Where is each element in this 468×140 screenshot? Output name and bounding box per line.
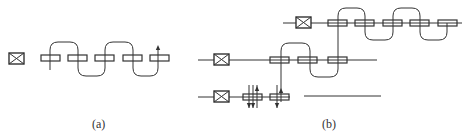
panel-a-label: (a): [92, 117, 105, 132]
element-rect: [270, 57, 289, 63]
element-rect: [438, 20, 457, 26]
arrow-down-icon: [275, 103, 279, 108]
element-rect: [328, 57, 347, 63]
panel-b-label: (b): [322, 117, 336, 132]
crossed-box-icon: [214, 54, 229, 65]
arrow-up-icon: [255, 86, 259, 91]
arrow-down-icon: [251, 103, 255, 108]
element-rect: [95, 55, 114, 61]
panel-b: [198, 8, 462, 108]
arrow-up-icon: [279, 88, 283, 93]
element-rect: [298, 57, 317, 63]
arrow-down-icon: [247, 103, 251, 108]
element-rect: [383, 20, 402, 26]
arrow-up-icon: [156, 45, 160, 50]
element-rect: [68, 55, 87, 61]
element-rect: [243, 94, 262, 100]
element-rect: [410, 20, 429, 26]
element-rect: [41, 55, 60, 61]
crossed-box-icon: [296, 17, 311, 28]
diagram-canvas: [0, 0, 468, 140]
element-rect: [150, 55, 169, 61]
element-rect: [355, 20, 374, 26]
crossed-box-icon: [9, 53, 24, 64]
element-rect: [328, 20, 347, 26]
crossed-box-icon: [214, 91, 229, 102]
panel-a: [9, 42, 169, 76]
element-rect: [123, 55, 142, 61]
element-rect: [270, 94, 289, 100]
